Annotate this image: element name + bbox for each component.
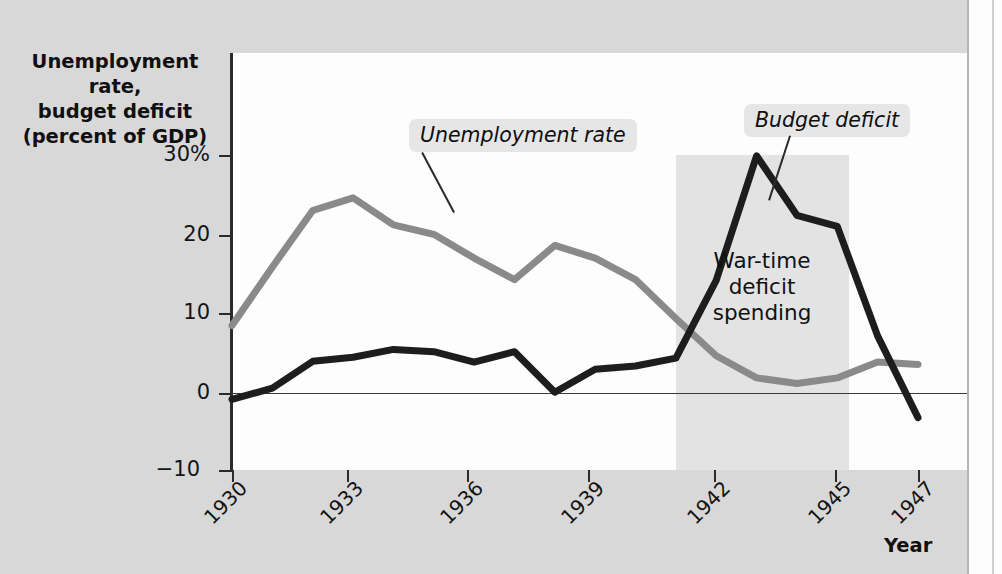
x-tick-mark-1942 xyxy=(714,470,716,482)
y-tick-mark-0 xyxy=(219,393,232,395)
x-tick-mark-1947 xyxy=(918,470,920,482)
x-tick-mark-1936 xyxy=(467,470,469,482)
war-time-annotation-line-3: spending xyxy=(702,300,822,326)
unemployment-rate-callout: Unemployment rate xyxy=(409,119,637,152)
y-axis-title: Unemployment rate, budget deficit (perce… xyxy=(4,50,226,150)
y-tick-label-neg10: −10 xyxy=(110,457,200,481)
y-tick-label-30: 30% xyxy=(120,142,210,166)
y-tick-label-20: 20 xyxy=(120,222,210,246)
y-axis-title-line-1: Unemployment rate, xyxy=(4,50,226,100)
x-tick-mark-1930 xyxy=(232,470,234,482)
war-time-annotation-line-2: deficit xyxy=(702,274,822,300)
war-time-annotation: War-time deficit spending xyxy=(702,248,822,327)
y-tick-label-0: 0 xyxy=(120,380,210,404)
budget-deficit-callout: Budget deficit xyxy=(744,104,910,137)
y-axis-title-line-2: budget deficit xyxy=(4,100,226,125)
right-margin xyxy=(969,0,1002,574)
war-time-annotation-line-1: War-time xyxy=(702,248,822,274)
chart-figure: Unemployment rate, budget deficit (perce… xyxy=(0,0,1002,574)
y-tick-mark-neg10 xyxy=(219,470,232,472)
y-tick-label-10: 10 xyxy=(120,300,210,324)
y-tick-mark-30 xyxy=(219,155,232,157)
x-axis-title: Year xyxy=(884,534,932,557)
x-tick-mark-1933 xyxy=(347,470,349,482)
x-tick-mark-1945 xyxy=(835,470,837,482)
y-tick-mark-10 xyxy=(219,313,232,315)
y-tick-mark-20 xyxy=(219,235,232,237)
x-tick-mark-1939 xyxy=(588,470,590,482)
right-border-rule-2 xyxy=(992,0,994,574)
